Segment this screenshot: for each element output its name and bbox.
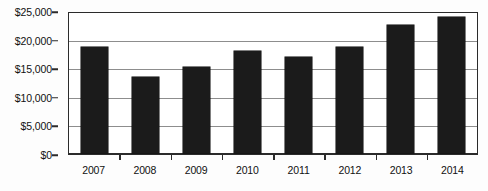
- bar-slot-2014: [426, 13, 477, 153]
- y-tick-mark-20000: [52, 40, 58, 42]
- x-tick-label-2012: 2012: [324, 160, 375, 184]
- y-tick-label-10000: $10,000: [15, 92, 52, 104]
- x-tick-label-2013: 2013: [376, 160, 427, 184]
- bar-slot-2009: [171, 13, 222, 153]
- y-tick-label-20000: $20,000: [15, 35, 52, 47]
- bar-2014: [438, 17, 465, 153]
- bar-slot-2012: [324, 13, 375, 153]
- bar-2009: [183, 67, 210, 153]
- y-tick-mark-25000: [52, 11, 58, 13]
- x-tick-label-2014: 2014: [427, 160, 478, 184]
- bar-slot-2008: [120, 13, 171, 153]
- bar-2011: [285, 57, 312, 153]
- bar-chart-figure: $25,000 $20,000 $15,000 $10,000 $5,000 $…: [0, 0, 488, 191]
- bars-layer: [69, 13, 477, 153]
- bar-2012: [336, 47, 363, 153]
- x-tick-label-2007: 2007: [68, 160, 119, 184]
- y-tick-label-0: $0: [41, 149, 52, 161]
- x-tick-label-2011: 2011: [273, 160, 324, 184]
- x-tick-label-2009: 2009: [171, 160, 222, 184]
- bar-2007: [81, 47, 108, 153]
- bar-slot-2013: [375, 13, 426, 153]
- y-tick-mark-15000: [52, 68, 58, 70]
- bar-slot-2011: [273, 13, 324, 153]
- y-tick-label-15000: $15,000: [15, 63, 52, 75]
- bar-slot-2010: [222, 13, 273, 153]
- y-tick-mark-5000: [52, 126, 58, 128]
- bar-2010: [234, 51, 261, 153]
- y-tick-mark-0: [52, 154, 58, 156]
- plot-area: [68, 12, 478, 155]
- y-tick-label-25000: $25,000: [15, 6, 52, 18]
- y-tick-mark-10000: [52, 97, 58, 99]
- bar-2013: [387, 25, 414, 153]
- x-tick-label-2010: 2010: [222, 160, 273, 184]
- y-axis: $25,000 $20,000 $15,000 $10,000 $5,000 $…: [0, 0, 62, 191]
- x-tick-label-2008: 2008: [119, 160, 170, 184]
- x-axis: 2007 2008 2009 2010 2011 2012 2013 2014: [68, 160, 478, 184]
- bar-2008: [132, 77, 159, 153]
- bar-slot-2007: [69, 13, 120, 153]
- y-tick-label-5000: $5,000: [20, 120, 52, 132]
